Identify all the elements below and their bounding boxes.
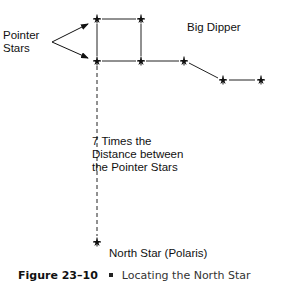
bullet-icon: [109, 273, 113, 277]
star-icon: [93, 57, 101, 66]
star-icon: [93, 15, 101, 24]
star-icon: [180, 57, 188, 66]
star-icon: [137, 57, 145, 66]
big-dipper-diagram: [0, 0, 290, 260]
north-star-label: North Star (Polaris): [109, 247, 207, 260]
distance-label-line: the Pointer Stars: [92, 161, 183, 174]
distance-label-line: Distance between: [92, 148, 183, 161]
star-icon: [257, 76, 265, 85]
figure-caption: Figure 23–10Locating the North Star: [18, 269, 250, 282]
star-icon: [219, 76, 227, 85]
big-dipper-label: Big Dipper: [187, 21, 241, 34]
pointer-label-line: Pointer: [3, 29, 39, 42]
figure-number: Figure 23–10: [18, 269, 98, 282]
pointer-stars-label: Pointer Stars: [3, 29, 39, 55]
pointer-arrows: [52, 24, 88, 58]
figure-title: Locating the North Star: [122, 269, 251, 282]
pointer-label-line: Stars: [3, 42, 39, 55]
distance-label: 7 Times the Distance between the Pointer…: [92, 135, 183, 174]
distance-label-line: 7 Times the: [92, 135, 183, 148]
north-star-icon: [93, 238, 101, 247]
star-icon: [137, 15, 145, 24]
